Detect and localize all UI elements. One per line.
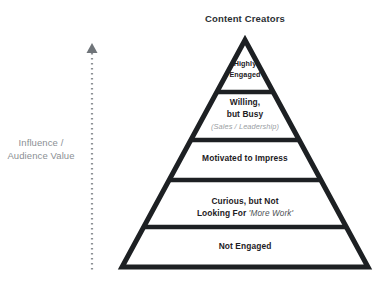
tier-label-curious-but-not-looking: Curious, but Not Looking For 'More Work' (155, 196, 335, 219)
pyramid-chart-canvas: Influence / Audience Value Content Creat… (0, 0, 385, 286)
tier-text-emphasis: 'More Work' (249, 209, 293, 218)
tier-label-not-engaged: Not Engaged (145, 241, 345, 253)
tier-text-line-composite: Looking For 'More Work' (155, 208, 335, 220)
tier-text-line: Motivated to Impress (165, 153, 325, 165)
tier-label-motivated-to-impress: Motivated to Impress (165, 153, 325, 165)
tier-text-prefix: Looking For (197, 208, 249, 218)
tier-label-willing-but-busy: Willing, but Busy (Sales / Leadership) (185, 97, 305, 132)
tier-text-line: Engaged (195, 70, 295, 81)
tier-label-highly-engaged: Highly Engaged (195, 59, 295, 80)
tier-text-line: Not Engaged (145, 241, 345, 253)
tier-text-line: Curious, but Not (155, 196, 335, 208)
tier-text-line: Willing, (185, 97, 305, 109)
tier-subtext: (Sales / Leadership) (185, 121, 305, 132)
tier-text-line: but Busy (185, 109, 305, 121)
tier-text-line: Highly (195, 59, 295, 70)
